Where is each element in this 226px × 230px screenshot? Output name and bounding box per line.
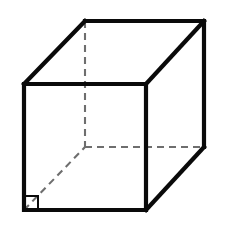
figure-root — [0, 0, 226, 230]
cube-diagram — [0, 0, 226, 230]
